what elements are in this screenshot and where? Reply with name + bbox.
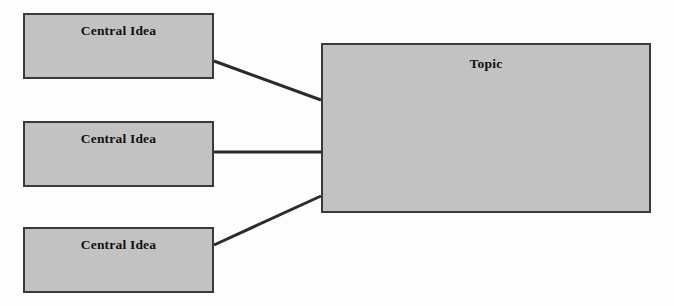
connector-idea-3-to-topic <box>214 196 321 245</box>
central-idea-node-2[interactable]: Central Idea <box>23 121 214 187</box>
central-idea-node-1[interactable]: Central Idea <box>23 13 214 79</box>
central-idea-label-3: Central Idea <box>81 229 157 252</box>
central-idea-label-1: Central Idea <box>81 15 157 38</box>
central-idea-label-2: Central Idea <box>81 123 157 146</box>
concept-map-canvas: Central Idea Central Idea Central Idea T… <box>0 0 674 306</box>
topic-label: Topic <box>470 45 503 71</box>
central-idea-node-3[interactable]: Central Idea <box>23 227 214 293</box>
topic-node[interactable]: Topic <box>321 43 651 213</box>
connector-idea-1-to-topic <box>214 61 321 100</box>
